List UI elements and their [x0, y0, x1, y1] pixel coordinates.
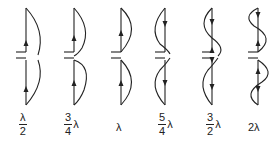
label-five-quarter-wave: 54λ [158, 112, 173, 137]
antenna-half-wave [16, 8, 40, 105]
antenna-diagram [0, 0, 279, 145]
antenna-three-quarter-wave [64, 8, 86, 105]
antenna-full-wave [111, 8, 132, 105]
antenna-five-quarter-wave [155, 8, 170, 105]
label-half-wave: λ2 [19, 112, 27, 137]
label-three-quarter-wave: 34λ [64, 112, 79, 137]
label-full-wave: λ [116, 122, 122, 133]
label-two-wave: 2λ [248, 122, 260, 133]
label-three-half-wave: 32λ [206, 112, 221, 137]
antenna-three-half-wave [202, 8, 221, 105]
antenna-two-wave [248, 8, 268, 105]
